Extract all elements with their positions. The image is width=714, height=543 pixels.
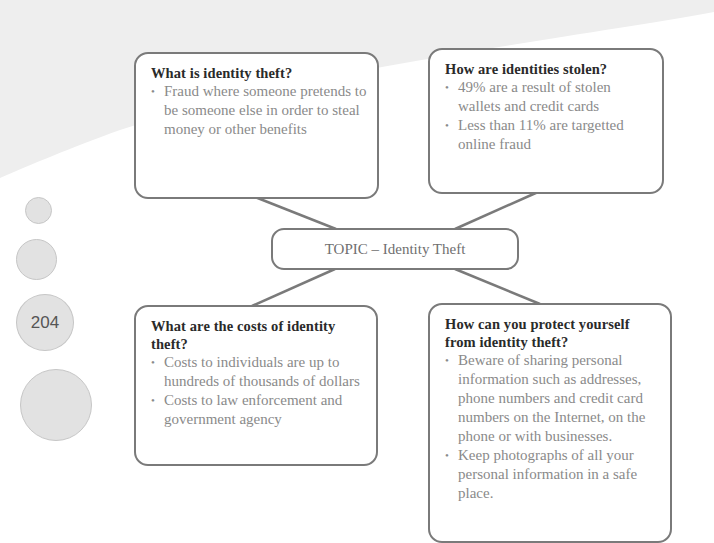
bullet-item: •Fraud where someone pretends to be some…	[151, 82, 367, 139]
topic-box: TOPIC – Identity Theft	[271, 228, 519, 270]
bullet-list: •Fraud where someone pretends to be some…	[151, 82, 367, 139]
bullet-icon: •	[445, 116, 449, 135]
connector-top-right	[455, 192, 538, 229]
decorative-circle-medium	[16, 239, 57, 280]
bullet-item: •Less than 11% are targetted online frau…	[445, 116, 652, 154]
bullet-item: •Costs to law enforcement and government…	[151, 391, 366, 429]
topic-label: TOPIC – Identity Theft	[325, 241, 466, 258]
bullet-icon: •	[445, 446, 449, 465]
box-heading: What is identity theft?	[151, 64, 367, 82]
box-how-identities-stolen: How are identities stolen? •49% are a re…	[428, 48, 664, 194]
bullet-icon: •	[445, 351, 449, 370]
bullet-icon: •	[151, 391, 155, 410]
bullet-list: •49% are a result of stolen wallets and …	[445, 78, 652, 154]
connector-bottom-right	[455, 269, 540, 304]
box-heading: How are identities stolen?	[445, 60, 652, 78]
page-number: 204	[31, 313, 59, 333]
bullet-icon: •	[151, 82, 155, 101]
bullet-icon: •	[151, 353, 155, 372]
bullet-item: •Costs to individuals are up to hundreds…	[151, 353, 366, 391]
box-heading: How can you protect yourself from identi…	[445, 315, 660, 351]
box-what-is-identity-theft: What is identity theft? •Fraud where som…	[134, 52, 379, 199]
connector-bottom-left	[252, 269, 335, 306]
bullet-icon: •	[445, 78, 449, 97]
bullet-item: •49% are a result of stolen wallets and …	[445, 78, 652, 116]
page-number-circle: 204	[16, 294, 74, 351]
box-costs-of-identity-theft: What are the costs of identity theft? •C…	[134, 305, 378, 466]
bullet-list: •Beware of sharing personal information …	[445, 351, 660, 503]
decorative-circle-large	[20, 369, 92, 441]
decorative-circle-small	[25, 197, 52, 224]
connector-top-left	[255, 197, 336, 229]
box-protect-yourself: How can you protect yourself from identi…	[428, 303, 672, 543]
box-heading: What are the costs of identity theft?	[151, 317, 366, 353]
bullet-item: •Beware of sharing personal information …	[445, 351, 660, 446]
bullet-list: •Costs to individuals are up to hundreds…	[151, 353, 366, 429]
bullet-item: •Keep photographs of all your personal i…	[445, 446, 660, 503]
